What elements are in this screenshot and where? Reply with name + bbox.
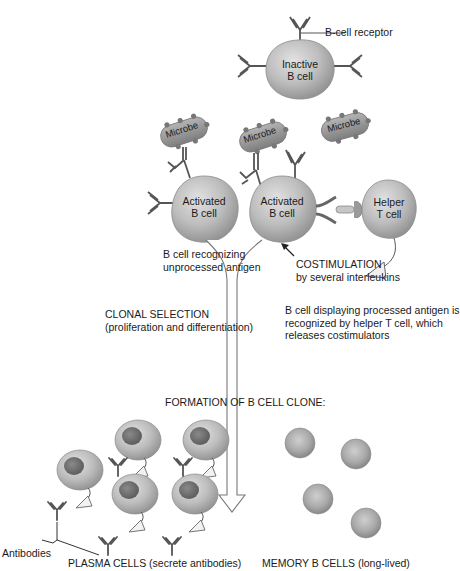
b-cell-receptor-label: B-cell receptor bbox=[325, 26, 393, 39]
costimulation-line2: by several interleukins bbox=[296, 271, 400, 284]
inactive-b-cell-label: Inactive B cell bbox=[270, 58, 330, 82]
formation-heading: FORMATION OF B CELL CLONE: bbox=[165, 396, 325, 409]
inactive-label-line1: Inactive bbox=[270, 58, 330, 70]
activated-1-line1: Activated bbox=[174, 195, 234, 207]
activated-b-cell-1-label: Activated B cell bbox=[174, 195, 234, 219]
memory-cells-label: MEMORY B CELLS (long-lived) bbox=[262, 557, 410, 570]
plasma-cells-label: PLASMA CELLS (secrete antibodies) bbox=[68, 557, 241, 570]
plasma-cells bbox=[42, 420, 229, 555]
activated-b-cell-2-label: Activated B cell bbox=[252, 195, 312, 219]
memory-cells bbox=[285, 428, 381, 538]
clonal-line1: CLONAL SELECTION bbox=[105, 308, 253, 321]
helper-line2: T cell bbox=[362, 208, 416, 220]
activated-2-line2: B cell bbox=[252, 207, 312, 219]
activated-2-line1: Activated bbox=[252, 195, 312, 207]
inactive-label-line2: B cell bbox=[270, 70, 330, 82]
processed-line1: B cell displaying processed antigen is bbox=[285, 304, 460, 317]
costimulation-line1: COSTIMULATION bbox=[296, 258, 400, 271]
helper-line1: Helper bbox=[362, 196, 416, 208]
recognizing-line2: unprocessed antigen bbox=[163, 261, 261, 274]
clonal-line2: (proliferation and differentiation) bbox=[105, 321, 253, 334]
clonal-selection-annotation: CLONAL SELECTION (proliferation and diff… bbox=[105, 308, 253, 333]
helper-t-cell-label: Helper T cell bbox=[362, 196, 416, 220]
processed-antigen-annotation: B cell displaying processed antigen is r… bbox=[285, 304, 460, 342]
recognizing-annotation: B cell recognizing unprocessed antigen bbox=[163, 248, 261, 273]
costimulation-annotation: COSTIMULATION by several interleukins bbox=[296, 258, 400, 283]
antibodies-label: Antibodies bbox=[2, 547, 51, 560]
activated-1-line2: B cell bbox=[174, 207, 234, 219]
processed-line2: recognized by helper T cell, which bbox=[285, 317, 460, 330]
recognizing-line1: B cell recognizing bbox=[163, 248, 261, 261]
processed-line3: releases costimulators bbox=[285, 329, 460, 342]
